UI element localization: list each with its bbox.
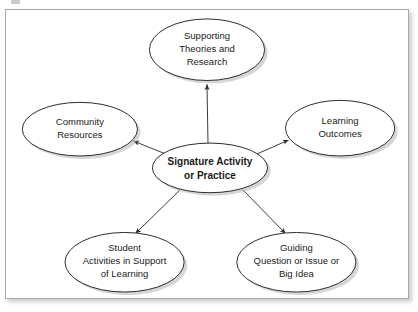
node-label-line-1: Supporting	[184, 30, 230, 41]
node-guiding-question[interactable]: Guiding Question or Issue or Big Idea	[237, 232, 359, 295]
node-learning-outcomes[interactable]: Learning Outcomes	[285, 100, 397, 159]
node-label-line-1: Community	[56, 116, 104, 127]
node-label-line-1: Signature Activity	[168, 156, 253, 167]
arrow-to-learning-outcomes	[255, 140, 289, 155]
arrow-to-guiding-question	[243, 190, 286, 234]
arrow-to-student-activities	[135, 190, 180, 234]
node-label-line-1: Guiding	[280, 242, 313, 253]
node-label-line-2: Outcomes	[318, 128, 362, 139]
node-supporting-theories[interactable]: Supporting Theories and Research	[149, 19, 267, 84]
node-community-resources[interactable]: Community Resources	[22, 102, 140, 159]
node-label-line-2: or Practice	[184, 170, 236, 181]
node-ellipse	[152, 143, 267, 193]
concept-map-diagram: Supporting Theories and Research Communi…	[6, 10, 408, 298]
node-label-line-3: Big Idea	[279, 268, 315, 279]
node-label-line-2: Activities in Support	[83, 255, 167, 266]
node-label-line-3: Research	[187, 56, 228, 67]
node-label-line-2: Theories and	[179, 43, 235, 54]
node-signature-activity[interactable]: Signature Activity or Practice	[152, 143, 270, 196]
node-label-line-2: Resources	[57, 129, 103, 140]
arrow-to-supporting-theories	[207, 84, 208, 143]
cropped-caption-fragment	[11, 0, 20, 4]
node-label-line-2: Question or Issue or	[254, 255, 341, 266]
node-label-line-3: of Learning	[101, 268, 149, 279]
figure-frame: Supporting Theories and Research Communi…	[5, 9, 409, 299]
node-label-line-1: Student	[108, 242, 141, 253]
node-student-activities[interactable]: Student Activities in Support of Learnin…	[65, 232, 187, 295]
node-label-line-1: Learning	[322, 115, 359, 126]
